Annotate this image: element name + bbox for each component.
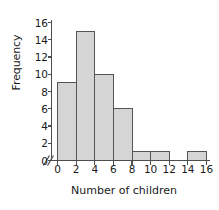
bar-10-12 xyxy=(151,152,170,161)
x-tick-label-8: 8 xyxy=(122,164,142,175)
bar-2-4 xyxy=(76,31,95,160)
x-tick-label-16: 16 xyxy=(197,164,217,175)
y-tick-label-8: 8 xyxy=(26,87,48,97)
y-tick-label-16: 16 xyxy=(26,18,48,28)
bar-8-10 xyxy=(132,152,151,161)
x-tick-label-2: 2 xyxy=(66,164,86,175)
histogram-chart: Frequency 0246810121416 0246810121416 Nu… xyxy=(0,0,219,210)
y-tick-labels: 0246810121416 xyxy=(22,0,48,210)
x-tick-label-14: 14 xyxy=(178,164,198,175)
bar-6-8 xyxy=(113,109,132,161)
bar-0-2 xyxy=(58,83,77,161)
y-tick-label-10: 10 xyxy=(26,69,48,79)
x-tick-label-6: 6 xyxy=(103,164,123,175)
y-tick-label-4: 4 xyxy=(26,121,48,131)
y-tick-label-6: 6 xyxy=(26,104,48,114)
x-tick-labels: 0246810121416 xyxy=(0,164,219,178)
x-tick-label-10: 10 xyxy=(141,164,161,175)
x-axis-label: Number of children xyxy=(34,184,214,197)
x-tick-label-12: 12 xyxy=(159,164,179,175)
y-tick-label-12: 12 xyxy=(26,52,48,62)
x-tick-label-4: 4 xyxy=(85,164,105,175)
y-tick-label-14: 14 xyxy=(26,35,48,45)
y-tick-label-2: 2 xyxy=(26,138,48,148)
bar-4-6 xyxy=(95,74,114,160)
x-tick-label-0: 0 xyxy=(48,164,68,175)
bar-14-16 xyxy=(188,152,207,161)
